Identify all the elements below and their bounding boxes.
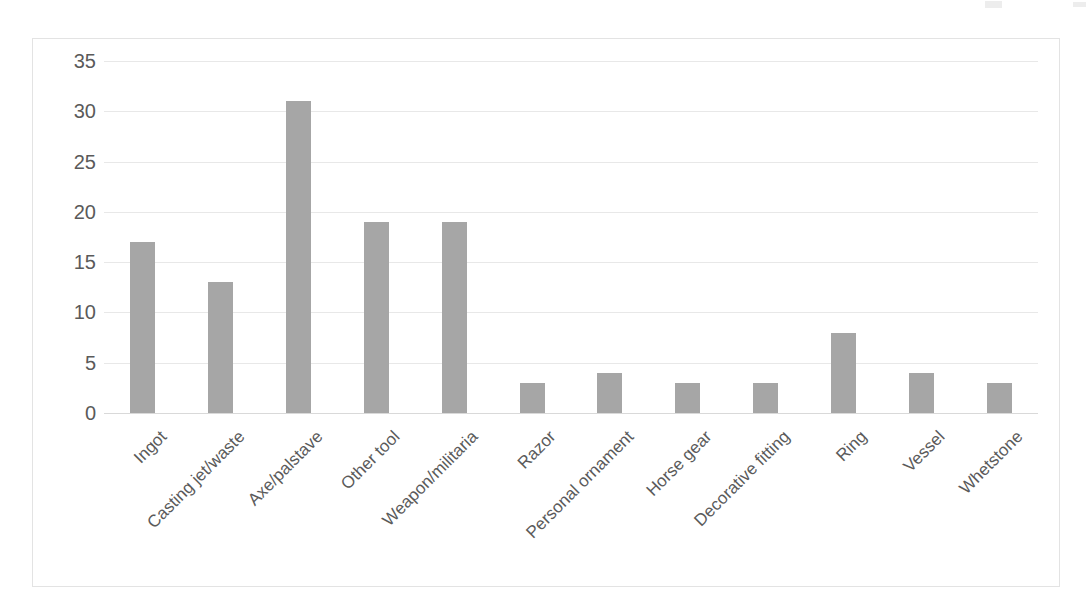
y-axis-tick-labels: 05101520253035 (33, 39, 104, 588)
x-axis-category-label: Ring (857, 427, 871, 441)
x-axis-category-label: Weapon/militaria (468, 427, 482, 441)
bar (987, 383, 1012, 413)
bar (831, 333, 856, 413)
y-axis-tick-label: 20 (74, 202, 96, 222)
y-axis-tick-label: 35 (74, 51, 96, 71)
x-axis-category-label-text: Ingot (130, 427, 171, 468)
y-axis-tick-label: 0 (85, 403, 96, 423)
x-axis-category-label: Vessel (935, 427, 949, 441)
bar (286, 101, 311, 413)
x-axis-category-label-text: Axe/palstave (244, 427, 327, 510)
bar (675, 383, 700, 413)
bar (442, 222, 467, 413)
x-axis-category-label-text: Horse gear (642, 427, 716, 501)
x-axis-category-label: Axe/palstave (313, 427, 327, 441)
plot-area (104, 61, 1038, 413)
bar (520, 383, 545, 413)
y-axis-tick-label: 30 (74, 101, 96, 121)
bar (909, 373, 934, 413)
scan-artifacts (0, 0, 1089, 14)
y-axis-tick-label: 5 (85, 353, 96, 373)
bar-series (104, 61, 1038, 413)
x-axis-category-label: Casting jet/waste (235, 427, 249, 441)
x-axis-category-label: Razor (546, 427, 560, 441)
x-axis-category-label: Other tool (390, 427, 404, 441)
scan-artifact-mark (985, 1, 1002, 8)
scan-artifact-mark (1073, 2, 1086, 7)
bar (208, 282, 233, 413)
x-axis-category-label-text: Razor (514, 427, 560, 473)
x-axis-category-label-text: Vessel (900, 427, 950, 477)
chart-frame: 05101520253035 IngotCasting jet/wasteAxe… (32, 38, 1060, 587)
x-axis-category-label: Ingot (157, 427, 171, 441)
y-axis-tick-label: 25 (74, 152, 96, 172)
x-axis-category-label: Horse gear (702, 427, 716, 441)
x-axis-category-labels: IngotCasting jet/wasteAxe/palstaveOther … (104, 413, 1038, 588)
bar (597, 373, 622, 413)
y-axis-tick-label: 15 (74, 252, 96, 272)
x-axis-category-label-text: Other tool (338, 427, 405, 494)
y-axis-tick-label: 10 (74, 302, 96, 322)
x-axis-category-label: Personal ornament (624, 427, 638, 441)
x-axis-category-label-text: Ring (833, 427, 872, 466)
x-axis-category-label: Whetstone (1013, 427, 1027, 441)
x-axis-category-label-text: Whetstone (956, 427, 1028, 499)
x-axis-category-label: Decorative fitting (780, 427, 794, 441)
bar (753, 383, 778, 413)
bar (364, 222, 389, 413)
bar (130, 242, 155, 413)
